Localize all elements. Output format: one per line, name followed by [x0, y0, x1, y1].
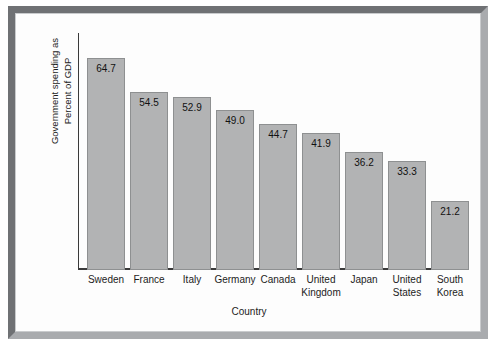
category-label-line-1: United: [393, 274, 422, 285]
figure-frame: Government spending as Percent of GDP 64…: [8, 6, 488, 339]
bar-value-label: 54.5: [131, 97, 167, 108]
bar[interactable]: 21.2: [431, 201, 469, 270]
bar-group: 64.7: [87, 14, 125, 270]
bar-value-label: 64.7: [88, 63, 124, 74]
category-axis-labels: SwedenFranceItalyGermanyCanadaUnitedKing…: [16, 273, 482, 307]
bar-value-label: 41.9: [303, 138, 339, 149]
bar[interactable]: 33.3: [388, 161, 426, 270]
bar-value-label: 52.9: [174, 102, 210, 113]
x-axis-title: Country: [16, 306, 482, 317]
category-label-line-1: France: [133, 274, 164, 285]
bar[interactable]: 36.2: [345, 152, 383, 270]
category-label-line-1: Germany: [214, 274, 255, 285]
bar-group: 36.2: [345, 14, 383, 270]
bar[interactable]: 54.5: [130, 92, 168, 270]
bar-value-label: 33.3: [389, 166, 425, 177]
category-label-line-1: Canada: [260, 274, 295, 285]
bar-value-label: 21.2: [432, 206, 468, 217]
bar-group: 33.3: [388, 14, 426, 270]
bar[interactable]: 49.0: [216, 110, 254, 270]
bar[interactable]: 41.9: [302, 133, 340, 270]
bar[interactable]: 44.7: [259, 124, 297, 270]
bar-group: 52.9: [173, 14, 211, 270]
bar[interactable]: 64.7: [87, 58, 125, 270]
category-label-line-1: United: [307, 274, 336, 285]
category-label: SouthKorea: [425, 273, 475, 299]
category-label-line-1: South: [437, 274, 463, 285]
plot-area: Government spending as Percent of GDP 64…: [16, 14, 482, 333]
category-label-line-1: Sweden: [88, 274, 124, 285]
bar-value-label: 36.2: [346, 157, 382, 168]
bar[interactable]: 52.9: [173, 97, 211, 270]
bar-group: 41.9: [302, 14, 340, 270]
category-label-line-2: Kingdom: [296, 286, 346, 299]
bar-group: 54.5: [130, 14, 168, 270]
bars-layer: 64.754.552.949.044.741.936.233.321.2: [16, 14, 482, 270]
bar-value-label: 44.7: [260, 129, 296, 140]
bar-group: 21.2: [431, 14, 469, 270]
category-label-line-1: Japan: [350, 274, 377, 285]
category-label-line-2: Korea: [425, 286, 475, 299]
bar-value-label: 49.0: [217, 115, 253, 126]
bar-group: 49.0: [216, 14, 254, 270]
figure-inner-border: Government spending as Percent of GDP 64…: [15, 13, 481, 332]
bar-group: 44.7: [259, 14, 297, 270]
category-label-line-1: Italy: [183, 274, 201, 285]
